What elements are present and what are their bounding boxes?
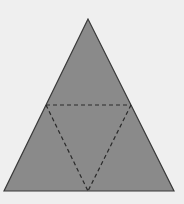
- triangle-diagram: [0, 0, 184, 204]
